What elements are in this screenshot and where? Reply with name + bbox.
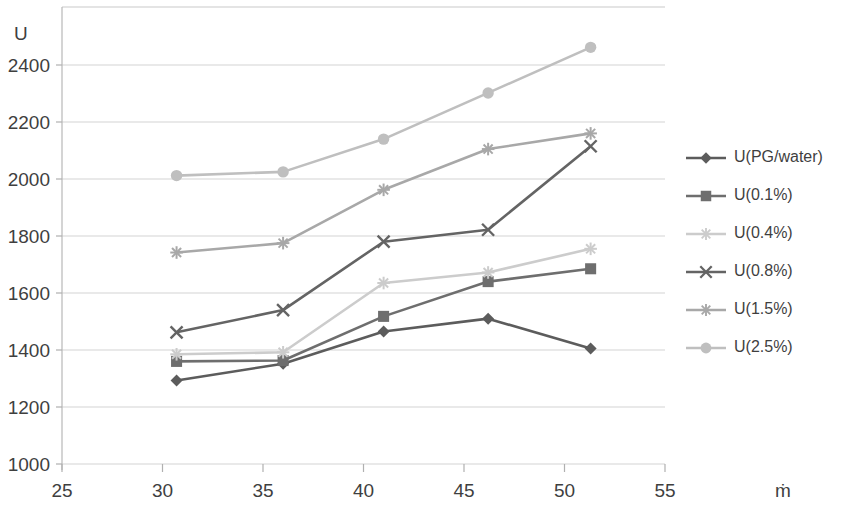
gridlines [62, 65, 665, 464]
data-series [170, 42, 597, 387]
chart-container: 24002200200018001600140012001000 2530354… [0, 0, 853, 508]
data-point-star-marker [584, 243, 597, 256]
data-point-star-marker [377, 277, 390, 290]
series-U(0.8%) [171, 140, 597, 338]
x-tick-label: 50 [554, 480, 575, 501]
data-point-star-marker [700, 228, 712, 240]
legend-item-U(0.8%)[interactable]: U(0.8%) [686, 262, 793, 279]
data-point-star-marker [482, 266, 495, 279]
legend-item-U(2.5%)[interactable]: U(2.5%) [686, 338, 793, 355]
legend-label: U(PG/water) [734, 148, 823, 165]
tick-marks [56, 65, 665, 472]
data-point-asterisk-marker [482, 143, 495, 156]
data-point-diamond-marker [171, 374, 183, 386]
data-point-asterisk-marker [700, 304, 712, 316]
y-axis-title: U [14, 23, 28, 44]
y-tick-label: 2400 [8, 55, 50, 76]
y-tick-label: 1600 [8, 283, 50, 304]
legend-label: U(0.1%) [734, 186, 793, 203]
x-axis-tick-labels: 25303540455055 [51, 480, 675, 501]
data-point-diamond-marker [378, 325, 390, 337]
legend-item-U(PG/water)[interactable]: U(PG/water) [686, 148, 823, 165]
x-tick-label: 40 [353, 480, 374, 501]
data-point-circle-marker [701, 343, 712, 354]
line-chart: 24002200200018001600140012001000 2530354… [0, 0, 853, 508]
data-point-diamond-marker [585, 343, 597, 355]
data-point-star-marker [170, 348, 183, 361]
y-tick-label: 2200 [8, 112, 50, 133]
data-point-circle-marker [482, 87, 493, 98]
data-point-circle-marker [171, 170, 182, 181]
y-axis-tick-labels: 24002200200018001600140012001000 [8, 55, 50, 475]
legend-item-U(1.5%)[interactable]: U(1.5%) [686, 300, 793, 317]
y-tick-label: 1400 [8, 340, 50, 361]
y-tick-label: 1000 [8, 454, 50, 475]
x-tick-label: 35 [252, 480, 273, 501]
data-point-x-marker [585, 140, 597, 152]
data-point-asterisk-marker [377, 184, 390, 197]
chart-legend: U(PG/water)U(0.1%)U(0.4%)U(0.8%)U(1.5%)U… [686, 148, 823, 355]
data-point-diamond-marker [700, 152, 711, 163]
legend-label: U(0.4%) [734, 224, 793, 241]
data-point-star-marker [277, 346, 290, 359]
legend-label: U(0.8%) [734, 262, 793, 279]
data-point-square-marker [378, 311, 389, 322]
legend-item-U(0.4%)[interactable]: U(0.4%) [686, 224, 793, 241]
data-point-asterisk-marker [277, 237, 290, 250]
data-point-asterisk-marker [584, 127, 597, 140]
x-axis-title: ṁ [775, 480, 791, 501]
data-point-square-marker [585, 263, 596, 274]
axis-lines [62, 7, 665, 470]
data-point-square-marker [701, 191, 711, 201]
y-tick-label: 1800 [8, 226, 50, 247]
data-point-circle-marker [277, 166, 288, 177]
series-U(0.4%) [170, 243, 597, 361]
y-tick-label: 1200 [8, 397, 50, 418]
x-tick-label: 25 [51, 480, 72, 501]
legend-label: U(2.5%) [734, 338, 793, 355]
x-tick-label: 45 [453, 480, 474, 501]
data-point-circle-marker [585, 42, 596, 53]
series-line [177, 47, 591, 175]
legend-item-U(0.1%)[interactable]: U(0.1%) [686, 186, 793, 203]
x-tick-label: 30 [152, 480, 173, 501]
data-point-asterisk-marker [170, 246, 183, 259]
series-line [177, 249, 591, 354]
series-U(2.5%) [171, 42, 596, 182]
legend-label: U(1.5%) [734, 300, 793, 317]
y-tick-label: 2000 [8, 169, 50, 190]
data-point-diamond-marker [482, 313, 494, 325]
data-point-circle-marker [378, 133, 389, 144]
x-tick-label: 55 [654, 480, 675, 501]
